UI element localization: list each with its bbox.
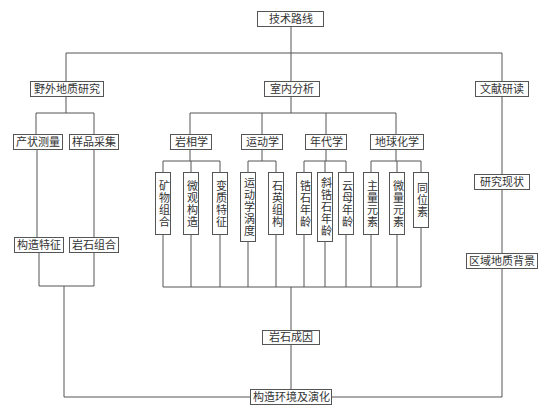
zircon-age-box: 锆石年龄: [296, 172, 312, 235]
kinematics-box: 运动学: [241, 134, 283, 150]
kinematic-vorticity-box: 运动学涡度: [240, 172, 256, 242]
attitude-measurement-box: 产状测量: [13, 134, 63, 150]
mineral-assemblage-box: 矿物组合: [155, 172, 171, 235]
tectonic-evolution-box: 构造环境及演化: [250, 389, 332, 405]
trace-elements-box: 微量元素: [389, 172, 405, 235]
geochronology-box: 年代学: [305, 134, 347, 150]
title-box: 技术路线: [257, 11, 324, 27]
petrography-box: 岩相学: [170, 134, 212, 150]
isotopes-box: 同位素: [413, 172, 429, 228]
mica-age-box: 云母年龄: [338, 172, 354, 235]
geochemistry-box: 地球化学: [370, 134, 424, 150]
baddeleyite-age-box: 斜锆石年龄: [317, 172, 333, 242]
sampling-box: 样品采集: [69, 134, 119, 150]
petrogenesis-box: 岩石成因: [262, 330, 320, 345]
rock-assemblage-box: 岩石组合: [69, 237, 119, 253]
lab-analysis-box: 室内分析: [264, 81, 320, 97]
metamorphic-features-box: 变质特征: [212, 172, 228, 235]
field-study-box: 野外地质研究: [30, 81, 104, 97]
microstructure-box: 微观构造: [183, 172, 199, 235]
literature-review-box: 文献研读: [475, 81, 529, 97]
regional-geology-box: 区域地质背景: [466, 253, 538, 269]
major-elements-box: 主量元素: [363, 172, 379, 235]
research-status-box: 研究现状: [474, 174, 530, 190]
structural-features-box: 构造特征: [14, 237, 64, 253]
quartz-fabric-box: 石英组构: [268, 172, 284, 235]
